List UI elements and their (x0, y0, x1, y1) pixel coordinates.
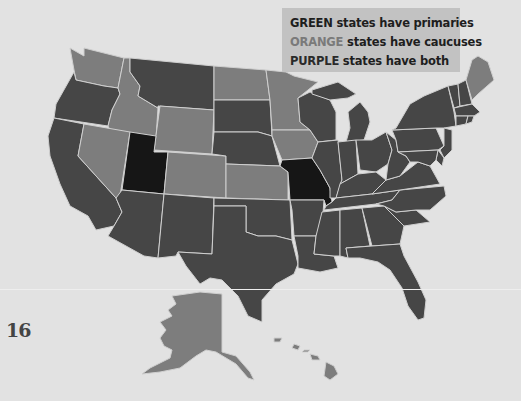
state-ks (226, 164, 288, 200)
legend-key-green: GREEN (290, 16, 333, 30)
state-co (164, 152, 226, 198)
state-hi-maui (310, 354, 320, 360)
state-fl (346, 244, 426, 320)
state-ak (142, 292, 254, 380)
scan-line (0, 289, 521, 290)
state-me (466, 56, 494, 100)
state-hi-oahu (292, 344, 300, 350)
state-hi-big (324, 362, 338, 380)
legend-key-purple: PURPLE (290, 54, 339, 68)
legend-text-both: states have both (339, 54, 449, 68)
legend-row-caucuses: ORANGE states have caucuses (290, 33, 460, 52)
state-nm (158, 194, 214, 258)
state-ri (466, 116, 474, 124)
state-pa (392, 128, 444, 152)
legend-row-both: PURPLE states have both (290, 52, 460, 71)
legend-key-orange: ORANGE (290, 35, 343, 49)
state-ny (392, 86, 456, 130)
state-nd (214, 66, 270, 100)
legend-text-primaries: states have primaries (333, 16, 474, 30)
legend-text-caucuses: states have caucuses (343, 35, 482, 49)
page-number: 16 (6, 319, 30, 341)
state-wy (154, 106, 214, 154)
state-az (108, 190, 164, 258)
state-ia (272, 130, 318, 160)
state-hi-kauai (274, 338, 282, 342)
state-sd (214, 100, 272, 136)
state-ct (456, 116, 468, 126)
legend-box: GREEN states have primaries ORANGE state… (282, 8, 460, 72)
state-hi-molokai (302, 350, 310, 352)
legend-row-primaries: GREEN states have primaries (290, 14, 460, 33)
state-mi-lower (346, 102, 370, 142)
